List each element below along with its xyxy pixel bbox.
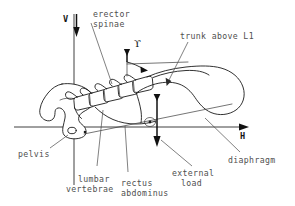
horizontal-axis-arrowhead xyxy=(239,124,249,131)
erector-spinae-force-vector: ϒ xyxy=(124,38,148,76)
trunk-angle-arrowhead xyxy=(141,66,149,73)
label-trunk-above-l1: trunk above L1 xyxy=(180,31,254,41)
label-pelvis: pelvis xyxy=(18,149,50,159)
biomechanics-diagram: H V xyxy=(0,0,295,206)
vertical-axis-label: V xyxy=(63,14,68,24)
pelvis-attachment-node xyxy=(84,131,87,134)
erector-spinae-arrowhead xyxy=(124,49,130,56)
label-external-load-line2: load xyxy=(181,178,202,188)
trunk-angle-gamma-symbol: ϒ xyxy=(134,38,141,49)
label-external-load-line1: external xyxy=(172,168,214,178)
label-rectus-abdominus-line1: rectus xyxy=(121,178,153,188)
leader-external-load xyxy=(161,140,192,166)
leader-rectus-abdominus xyxy=(125,126,128,172)
trunk-axis-line xyxy=(127,62,188,64)
label-erector-spinae-line1: erector xyxy=(93,9,130,19)
vertical-force-vector: V xyxy=(63,14,80,37)
leader-diaphragm xyxy=(205,118,240,152)
leader-erector-spinae xyxy=(91,23,112,84)
external-load-arrowhead xyxy=(153,136,160,147)
label-lumbar-vertebrae-line2: vertebrae xyxy=(66,184,114,194)
leader-lumbar-vertebrae xyxy=(97,110,103,166)
diaphragm-line xyxy=(84,104,232,134)
leader-trunk-arrowhead xyxy=(166,78,172,86)
external-load-force-vector xyxy=(153,94,160,147)
label-diaphragm: diaphragm xyxy=(228,155,276,165)
figure-canvas: H V xyxy=(0,0,295,206)
label-erector-spinae-line2: spinae xyxy=(93,19,125,29)
label-rectus-abdominus-line2: abdominus xyxy=(121,188,169,198)
external-load-upper-arrowhead xyxy=(154,94,161,101)
leader-pelvis xyxy=(50,135,68,148)
label-lumbar-vertebrae-line1: lumbar xyxy=(78,174,110,184)
trunk-outline xyxy=(137,66,244,115)
horizontal-axis-label: H xyxy=(240,131,245,141)
